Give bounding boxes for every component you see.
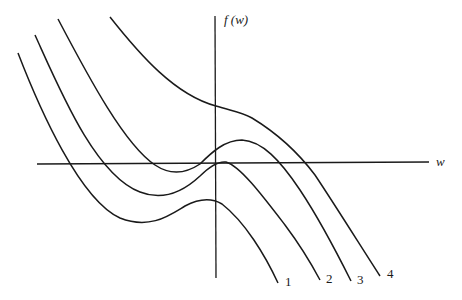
f-axis-label: f (w)	[224, 12, 248, 27]
curve-2	[35, 35, 320, 280]
curve-2-label: 2	[326, 271, 333, 286]
function-family-diagram: f (w) w 1 2 3 4	[0, 0, 462, 300]
curve-1	[18, 53, 278, 283]
w-axis-label: w	[436, 154, 445, 169]
curve-3	[58, 19, 351, 281]
w-axis	[37, 162, 429, 164]
curve-3-label: 3	[357, 272, 364, 287]
curve-1-label: 1	[285, 274, 292, 289]
curve-4-label: 4	[387, 266, 394, 281]
f-axis	[215, 16, 216, 278]
curve-4	[110, 17, 380, 276]
